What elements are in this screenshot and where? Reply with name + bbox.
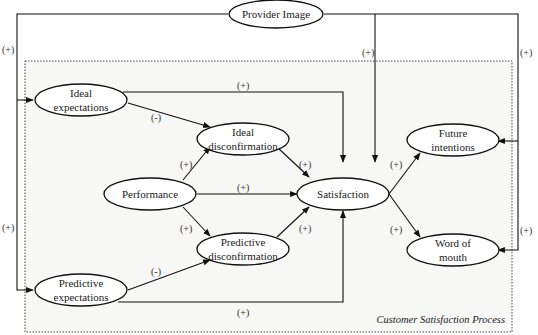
svg-text:disconfirmation: disconfirmation xyxy=(208,140,278,152)
node-provider-image: Provider Image xyxy=(229,0,323,28)
node-word-of-mouth: Word of mouth xyxy=(407,234,499,266)
svg-text:Predictive: Predictive xyxy=(221,236,266,248)
label-pred-disc-to-sat: (+) xyxy=(299,223,311,235)
node-predictive-expectations: Predictive expectations xyxy=(35,274,127,306)
svg-text:Performance: Performance xyxy=(122,188,178,200)
node-satisfaction: Satisfaction xyxy=(297,178,389,210)
svg-text:mouth: mouth xyxy=(439,251,468,263)
svg-text:Provider Image: Provider Image xyxy=(242,8,310,20)
label-left-upper: (+) xyxy=(2,44,14,56)
label-sat-to-wom: (+) xyxy=(390,224,402,236)
svg-text:Ideal: Ideal xyxy=(232,126,254,138)
label-provider-to-satisfaction: (+) xyxy=(362,47,374,59)
node-predictive-disconfirmation: Predictive disconfirmation xyxy=(197,233,289,265)
label-ideal-exp-to-disc: (-) xyxy=(151,112,161,124)
node-ideal-disconfirmation: Ideal disconfirmation xyxy=(197,123,289,155)
node-future-intentions: Future intentions xyxy=(407,124,499,156)
label-perf-to-pred-disc: (+) xyxy=(180,223,192,235)
label-perf-to-ideal-disc: (+) xyxy=(180,159,192,171)
label-left-lower: (+) xyxy=(2,222,14,234)
node-ideal-expectations: Ideal expectations xyxy=(35,84,127,116)
label-ideal-exp-to-sat: (+) xyxy=(237,80,249,92)
process-caption: Customer Satisfaction Process xyxy=(376,314,505,325)
svg-text:expectations: expectations xyxy=(54,101,109,113)
label-right-upper: (+) xyxy=(520,47,532,59)
svg-text:intentions: intentions xyxy=(431,141,474,153)
svg-text:expectations: expectations xyxy=(54,291,109,303)
customer-satisfaction-diagram: Provider Image Ideal expectations Ideal … xyxy=(0,0,538,335)
label-ideal-disc-to-sat: (+) xyxy=(299,159,311,171)
svg-text:Predictive: Predictive xyxy=(59,277,104,289)
svg-text:Word of: Word of xyxy=(435,237,471,249)
svg-text:Future: Future xyxy=(439,127,468,139)
svg-text:disconfirmation: disconfirmation xyxy=(208,250,278,262)
label-right-lower: (+) xyxy=(520,225,532,237)
label-sat-to-future: (+) xyxy=(390,159,402,171)
label-perf-to-sat: (+) xyxy=(237,182,249,194)
svg-text:Ideal: Ideal xyxy=(70,87,92,99)
label-pred-exp-to-disc: (-) xyxy=(151,266,161,278)
svg-text:Satisfaction: Satisfaction xyxy=(317,188,369,200)
label-pred-exp-to-sat: (+) xyxy=(237,307,249,319)
node-performance: Performance xyxy=(104,178,196,210)
